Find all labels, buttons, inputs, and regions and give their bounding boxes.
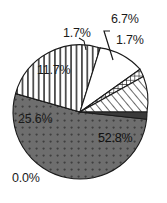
pie-label-6-7: 6.7% bbox=[111, 13, 139, 26]
pie-label-1-7-crosshatch: 1.7% bbox=[63, 27, 91, 40]
pie-label-25-4: 25.6% bbox=[18, 113, 52, 126]
pie-label-1-7-sliver: 1.7% bbox=[116, 34, 144, 47]
pie-label-11-7: 11.7% bbox=[37, 64, 71, 77]
pie-label-0-0: 0.0% bbox=[12, 172, 40, 185]
pie-chart: 1.7% 6.7% 1.7% 11.7% 25.6% 52.8% 0.0% bbox=[0, 0, 167, 203]
pie-label-52-8: 52.8% bbox=[98, 132, 132, 145]
